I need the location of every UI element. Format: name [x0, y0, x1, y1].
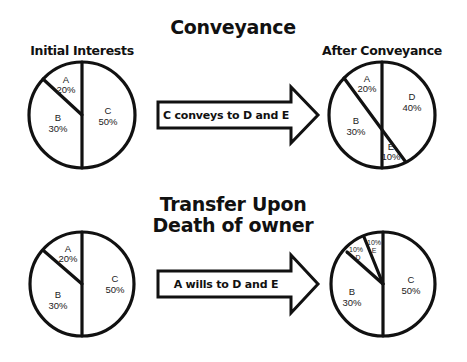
arrow-label-transfer: A wills to D and E	[174, 278, 279, 291]
slice-a-percent: 20%	[357, 83, 377, 94]
slice-e-percent: 10%	[381, 151, 401, 162]
slice-c-owner: C	[105, 105, 112, 116]
slice-b-percent: 30%	[346, 126, 366, 137]
arrow-transfer: A wills to D and E	[158, 255, 318, 313]
slice-d-percent: 10%	[349, 246, 363, 253]
slice-b-percent: 30%	[48, 300, 68, 311]
slice-d-owner: D	[355, 254, 360, 261]
pie-label-initial-interests: Initial Interests	[30, 43, 134, 58]
slice-c-percent: 50%	[98, 116, 118, 127]
pie-initial-interests: A 20% B 30% C 50%	[29, 62, 135, 168]
slice-a-percent: 20%	[56, 84, 76, 95]
pie-before-transfer: A 20% B 30% C 50%	[30, 232, 134, 336]
slice-d-percent: 40%	[402, 102, 422, 113]
diagram-canvas: Conveyance Initial Interests A 20% B 30%…	[0, 0, 467, 362]
arrow-conveyance: C conveys to D and E	[158, 87, 318, 143]
slice-b-owner: B	[349, 286, 355, 297]
pie-after-transfer: 10% D 10% E B 30% C 50%	[331, 232, 435, 336]
slice-b-percent: 30%	[48, 123, 68, 134]
pie-label-after-conveyance: After Conveyance	[322, 43, 442, 58]
slice-e-owner: E	[372, 247, 377, 254]
slice-c-percent: 50%	[105, 284, 125, 295]
section-title-transfer-line1: Transfer Upon	[160, 193, 307, 215]
slice-b-owner: B	[55, 289, 61, 300]
slice-a-percent: 20%	[58, 253, 78, 264]
pie-after-conveyance: A 20% B 30% D 40% E 10%	[329, 62, 435, 168]
slice-b-owner: B	[55, 112, 61, 123]
section-title-conveyance: Conveyance	[170, 16, 296, 38]
slice-b-percent: 30%	[342, 297, 362, 308]
slice-c-owner: C	[112, 273, 119, 284]
section-title-transfer-line2: Death of owner	[153, 214, 315, 236]
arrow-label-conveyance: C conveys to D and E	[163, 109, 289, 122]
slice-c-owner: C	[408, 274, 415, 285]
slice-d-owner: D	[409, 91, 416, 102]
slice-c-percent: 50%	[401, 285, 421, 296]
slice-e-percent: 10%	[367, 239, 381, 246]
slice-b-owner: B	[353, 115, 359, 126]
